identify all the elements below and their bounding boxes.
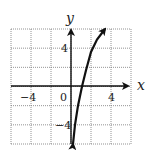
x-tick-4: 4 [108,91,115,104]
x-tick-neg4: −4 [20,91,36,104]
y-axis-label: y [65,10,75,26]
origin-label: 0 [60,91,67,104]
x-axis-label: x [137,77,145,93]
graph: x y −4 0 4 4 −4 [0,0,156,153]
y-tick-4: 4 [61,42,68,55]
y-tick-neg4: −4 [55,119,71,132]
